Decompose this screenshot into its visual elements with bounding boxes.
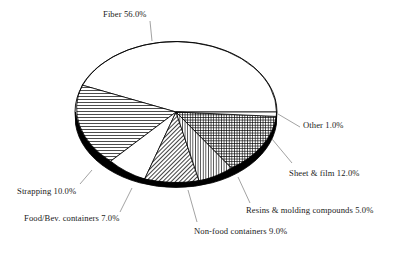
label-fiber: Fiber 56.0% xyxy=(103,9,147,19)
leader-line-other xyxy=(278,114,300,127)
label-non-food: Non-food containers 9.0% xyxy=(194,226,287,236)
leader-line-non-food xyxy=(188,190,197,222)
label-resins: Resins & molding compounds 5.0% xyxy=(246,205,373,215)
leader-line-sheet-film xyxy=(272,139,292,163)
leader-line-resins xyxy=(238,177,250,203)
label-food-bev: Food/Bev. containers 7.0% xyxy=(24,213,120,223)
label-other: Other 1.0% xyxy=(303,120,344,130)
label-sheet-film: Sheet & film 12.0% xyxy=(289,168,360,178)
leader-line-strapping xyxy=(80,170,92,184)
label-strapping: Strapping 10.0% xyxy=(17,186,76,196)
pie-chart: Fiber 56.0% Other 1.0% Sheet & film 12.0… xyxy=(0,0,412,254)
leader-line-fiber xyxy=(150,21,152,41)
leader-line-food-bev xyxy=(120,188,132,212)
